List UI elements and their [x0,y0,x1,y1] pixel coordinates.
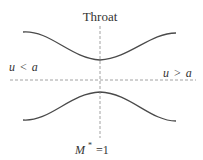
lower-wall-curve [23,92,176,121]
supersonic-label: u > a [163,66,192,80]
upper-wall-curve [23,32,176,60]
nozzle-diagram: Throat u < a u > a M * =1 [0,0,203,160]
subsonic-label: u < a [9,60,38,74]
mach-star-label: M * =1 [74,137,109,157]
throat-label: Throat [83,9,118,24]
